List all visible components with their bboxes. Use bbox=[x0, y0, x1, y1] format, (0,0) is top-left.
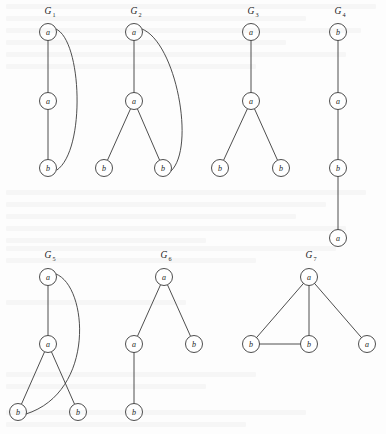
graph-name-label: G3 bbox=[248, 6, 259, 18]
graph-node[interactable]: a bbox=[243, 93, 260, 110]
graph-node[interactable]: b bbox=[301, 336, 318, 353]
node-label: b bbox=[132, 408, 136, 417]
graph-node[interactable]: a bbox=[40, 93, 57, 110]
graph-name-base: G bbox=[335, 6, 342, 16]
graph-node[interactable]: b bbox=[330, 160, 347, 177]
graph-name-label: G7 bbox=[306, 250, 317, 262]
graph-node[interactable]: a bbox=[126, 24, 143, 41]
node-label: a bbox=[365, 340, 369, 349]
graph-name-label: G4 bbox=[335, 6, 346, 18]
graph-name-base: G bbox=[131, 6, 138, 16]
graph-node[interactable]: b bbox=[155, 160, 172, 177]
graph-node[interactable]: b bbox=[70, 404, 87, 421]
graph-node[interactable]: b bbox=[40, 160, 57, 177]
node-label: b bbox=[161, 164, 165, 173]
graph-node[interactable]: a bbox=[301, 269, 318, 286]
node-label: a bbox=[132, 340, 136, 349]
graph-node[interactable]: a bbox=[40, 24, 57, 41]
node-label: b bbox=[76, 408, 80, 417]
graph-name-base: G bbox=[161, 250, 168, 260]
node-label: a bbox=[46, 273, 50, 282]
graph-node[interactable]: a bbox=[359, 336, 376, 353]
graph-g4: babaG4 bbox=[330, 6, 347, 247]
graph-g7: abbaG7 bbox=[243, 250, 376, 353]
graph-name-base: G bbox=[248, 6, 255, 16]
node-label: b bbox=[192, 340, 196, 349]
graph-node[interactable]: a bbox=[40, 336, 57, 353]
node-label: b bbox=[249, 340, 253, 349]
edge-straight bbox=[137, 109, 159, 160]
graph-name-subscript: 3 bbox=[255, 11, 258, 18]
graph-name-subscript: 5 bbox=[52, 255, 55, 262]
graph-node[interactable]: b bbox=[273, 160, 290, 177]
graph-name-subscript: 7 bbox=[313, 255, 316, 262]
graph-node[interactable]: a bbox=[126, 93, 143, 110]
graph-name-subscript: 6 bbox=[168, 255, 171, 262]
graph-name-base: G bbox=[45, 6, 52, 16]
edge-straight bbox=[167, 285, 190, 336]
graph-name-subscript: 4 bbox=[342, 11, 345, 18]
graph-node[interactable]: a bbox=[330, 230, 347, 247]
node-label: b bbox=[218, 164, 222, 173]
edge-straight bbox=[224, 109, 248, 161]
edge-straight bbox=[137, 285, 160, 336]
node-label: a bbox=[46, 97, 50, 106]
node-label: b bbox=[336, 28, 340, 37]
node-label: b bbox=[102, 164, 106, 173]
graph-name-label: G5 bbox=[45, 250, 56, 262]
node-label: b bbox=[16, 408, 20, 417]
node-label: b bbox=[279, 164, 283, 173]
node-label: a bbox=[132, 28, 136, 37]
graph-g6: aabbG6 bbox=[126, 250, 203, 421]
node-label: b bbox=[307, 340, 311, 349]
graph-figure-canvas: aabG1aabbG2aabbG3babaG4aabbG5aabbG6abbaG… bbox=[0, 0, 386, 434]
graph-node[interactable]: b bbox=[330, 24, 347, 41]
node-label: a bbox=[336, 97, 340, 106]
graph-node[interactable]: a bbox=[126, 336, 143, 353]
graph-g5: aabbG5 bbox=[10, 250, 87, 421]
graph-name-subscript: 1 bbox=[52, 11, 55, 18]
graph-node[interactable]: b bbox=[96, 160, 113, 177]
graph-name-label: G2 bbox=[131, 6, 142, 18]
figure-root: aabG1aabbG2aabbG3babaG4aabbG5aabbG6abbaG… bbox=[0, 0, 386, 434]
node-label: a bbox=[336, 234, 340, 243]
graph-node[interactable]: b bbox=[186, 336, 203, 353]
graph-g3: aabbG3 bbox=[212, 6, 290, 177]
node-label: a bbox=[46, 340, 50, 349]
edge-straight bbox=[315, 283, 362, 337]
graph-name-subscript: 2 bbox=[138, 11, 141, 18]
graph-name-label: G1 bbox=[45, 6, 56, 18]
graph-node[interactable]: b bbox=[212, 160, 229, 177]
graph-node[interactable]: a bbox=[40, 269, 57, 286]
graph-name-label: G6 bbox=[161, 250, 172, 262]
edge-straight bbox=[254, 109, 277, 160]
node-label: b bbox=[46, 164, 50, 173]
node-label: a bbox=[249, 97, 253, 106]
edge-curved bbox=[142, 29, 182, 171]
edge-straight bbox=[21, 352, 44, 404]
graph-g2: aabbG2 bbox=[96, 6, 183, 177]
edge-curved bbox=[56, 29, 77, 170]
graph-node[interactable]: b bbox=[10, 404, 27, 421]
graph-node[interactable]: a bbox=[243, 24, 260, 41]
graph-name-base: G bbox=[45, 250, 52, 260]
graph-node[interactable]: b bbox=[126, 404, 143, 421]
node-label: a bbox=[307, 273, 311, 282]
node-label: a bbox=[46, 28, 50, 37]
node-label: b bbox=[336, 164, 340, 173]
edge-straight bbox=[257, 283, 304, 337]
node-label: a bbox=[132, 97, 136, 106]
edge-straight bbox=[107, 109, 130, 160]
node-label: a bbox=[162, 273, 166, 282]
graph-node[interactable]: a bbox=[330, 93, 347, 110]
graph-node[interactable]: a bbox=[156, 269, 173, 286]
graph-g1: aabG1 bbox=[40, 6, 78, 177]
graph-node[interactable]: b bbox=[243, 336, 260, 353]
node-label: a bbox=[249, 28, 253, 37]
graph-name-base: G bbox=[306, 250, 313, 260]
